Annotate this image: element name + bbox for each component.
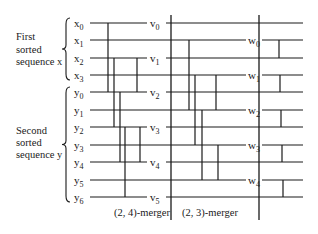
input-label-y5: y5	[74, 174, 84, 189]
output-label-v4: v4	[150, 156, 160, 171]
output-label-v5: v5	[150, 191, 160, 206]
group-label-first: sequence x	[16, 56, 63, 67]
input-label-y4: y4	[74, 156, 84, 171]
input-label-y3: y3	[74, 139, 84, 154]
input-label-y1: y1	[74, 104, 84, 119]
input-label-x1: x1	[74, 34, 84, 49]
input-label-y2: y2	[74, 121, 84, 136]
output-label-v0: v0	[150, 17, 160, 32]
merger-label-right: (2, 3)-merger	[182, 207, 238, 219]
input-label-x2: x2	[74, 52, 84, 67]
brace-second-sequence	[62, 87, 70, 202]
group-label-second: Second	[16, 125, 48, 136]
output-label-v1: v1	[150, 52, 160, 67]
group-label-first: First	[16, 31, 35, 42]
group-label-second: sorted	[16, 137, 42, 148]
input-label-x3: x3	[74, 69, 84, 84]
merger-label-left: (2, 4)-merger	[114, 207, 170, 219]
output-label-v2: v2	[150, 86, 160, 101]
merger-network-diagram: Firstsortedsequence xSecondsortedsequenc…	[0, 0, 318, 234]
network-svg: Firstsortedsequence xSecondsortedsequenc…	[0, 0, 318, 234]
input-label-y0: y0	[74, 86, 84, 101]
input-label-y6: y6	[74, 191, 84, 206]
group-label-second: sequence y	[16, 149, 63, 160]
output-label-v3: v3	[150, 121, 160, 136]
brace-first-sequence	[62, 18, 70, 80]
input-label-x0: x0	[74, 17, 84, 32]
group-label-first: sorted	[16, 44, 42, 55]
